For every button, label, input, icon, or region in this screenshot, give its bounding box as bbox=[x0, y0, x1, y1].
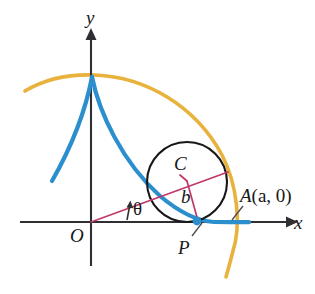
point-P-marker bbox=[193, 217, 202, 226]
ray-from-origin-through-circle bbox=[91, 172, 228, 222]
y-axis bbox=[86, 28, 97, 266]
blue-curve-left-branch bbox=[52, 77, 92, 181]
diagram-canvas bbox=[0, 0, 315, 294]
origin-label: O bbox=[70, 226, 84, 245]
point-P-label: P bbox=[178, 238, 190, 257]
point-A-name: A bbox=[240, 185, 252, 206]
math-diagram: y x O C b P θ A(a, 0) bbox=[0, 0, 315, 294]
y-axis-label: y bbox=[86, 8, 94, 27]
x-axis-label: x bbox=[294, 213, 302, 232]
circle-center-label: C bbox=[174, 154, 187, 173]
offset-length-label: b bbox=[181, 187, 191, 206]
center-tick-mark bbox=[180, 175, 187, 181]
point-A-coords: (a, 0) bbox=[252, 185, 292, 206]
theta-angle-label: θ bbox=[133, 199, 142, 218]
point-A-label: A(a, 0) bbox=[240, 186, 292, 205]
x-axis bbox=[20, 217, 298, 228]
y-axis-arrowhead bbox=[86, 28, 97, 40]
